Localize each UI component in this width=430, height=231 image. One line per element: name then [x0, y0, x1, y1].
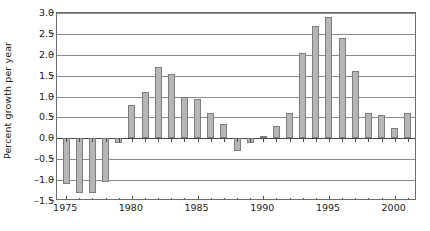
x-axis-minor-tick [408, 138, 409, 142]
y-axis-tick-label: 1.5 [20, 69, 54, 80]
bar [207, 113, 214, 138]
x-axis-minor-tick [224, 198, 225, 200]
x-axis-minor-tick [303, 198, 304, 200]
x-axis-minor-tick [158, 198, 159, 200]
x-axis-minor-tick [408, 198, 409, 200]
bar [155, 67, 162, 138]
x-axis-minor-tick [119, 198, 120, 200]
gridline [57, 180, 415, 181]
gridline [57, 76, 415, 77]
x-axis-major-tick [132, 196, 133, 200]
x-axis-minor-tick [368, 198, 369, 200]
x-axis-tick-label: 1985 [184, 202, 208, 213]
y-axis-tick-mark [50, 75, 54, 76]
x-axis-tick-labels: 197519801985199019952000 [56, 202, 416, 224]
bar [76, 138, 83, 192]
x-axis-minor-tick [342, 138, 343, 142]
x-axis-minor-tick [211, 138, 212, 142]
y-axis-title: Percent growth per year [0, 0, 16, 200]
x-axis-major-tick [66, 196, 67, 200]
y-axis-tick-label: –0.5 [20, 153, 54, 164]
bar [220, 124, 227, 139]
y-axis-tick-label: 0.5 [20, 111, 54, 122]
bar [273, 126, 280, 139]
y-axis-tick-mark [50, 116, 54, 117]
x-axis-minor-tick [119, 138, 120, 142]
y-axis-tick-labels: 3.02.52.01.51.00.50.0–0.5–1.0–1.5 [16, 12, 54, 200]
y-axis-tick-label: –1.0 [20, 174, 54, 185]
x-axis-minor-tick [79, 198, 80, 200]
bar [194, 99, 201, 139]
x-axis-tick-label: 2000 [382, 202, 406, 213]
y-axis-tick-mark [50, 200, 54, 201]
x-axis-minor-tick [290, 138, 291, 142]
x-axis-tick-label: 1995 [316, 202, 340, 213]
bar [181, 97, 188, 139]
x-axis-minor-tick [66, 138, 67, 142]
gridline [57, 97, 415, 98]
x-axis-minor-tick [198, 138, 199, 142]
x-axis-minor-tick [329, 138, 330, 142]
y-axis-tick-mark [50, 137, 54, 138]
x-axis-minor-tick [237, 138, 238, 142]
x-axis-minor-tick [132, 138, 133, 142]
x-axis-minor-tick [106, 198, 107, 200]
x-axis-minor-tick [171, 138, 172, 142]
bar [312, 26, 319, 139]
x-axis-minor-tick [237, 198, 238, 200]
bar [63, 138, 70, 184]
bar [352, 71, 359, 138]
x-axis-minor-tick [92, 138, 93, 142]
y-axis-tick-mark [50, 12, 54, 13]
x-axis-minor-tick [382, 198, 383, 200]
gridline [57, 55, 415, 56]
y-axis-tick-label: 2.0 [20, 48, 54, 59]
bar [391, 128, 398, 138]
x-axis-tick-label: 1975 [53, 202, 77, 213]
y-axis-tick-mark [50, 158, 54, 159]
x-axis-minor-tick [368, 138, 369, 142]
bar [299, 53, 306, 139]
x-axis-minor-tick [92, 198, 93, 200]
x-axis-minor-tick [145, 138, 146, 142]
gridline [57, 34, 415, 35]
x-axis-major-tick [395, 196, 396, 200]
bar-chart: Percent growth per year 3.02.52.01.51.00… [0, 0, 430, 231]
x-axis-minor-tick [79, 138, 80, 142]
gridline [57, 13, 415, 14]
bar [89, 138, 96, 192]
x-axis-minor-tick [342, 198, 343, 200]
x-axis-minor-tick [316, 138, 317, 142]
y-axis-tick-label: 2.5 [20, 27, 54, 38]
y-axis-tick-mark [50, 96, 54, 97]
bar [286, 113, 293, 138]
x-axis-minor-tick [171, 198, 172, 200]
x-axis-minor-tick [158, 138, 159, 142]
plot-area [56, 12, 416, 200]
x-axis-major-tick [198, 196, 199, 200]
x-axis-minor-tick [276, 198, 277, 200]
x-axis-minor-tick [290, 198, 291, 200]
x-axis-minor-tick [395, 138, 396, 142]
x-axis-minor-tick [211, 198, 212, 200]
y-axis-tick-mark [50, 54, 54, 55]
bar [325, 17, 332, 138]
bar [378, 115, 385, 138]
x-axis-minor-tick [106, 138, 107, 142]
bar [339, 38, 346, 138]
x-axis-minor-tick [184, 198, 185, 200]
y-axis-tick-label: 0.0 [20, 132, 54, 143]
x-axis-minor-tick [224, 138, 225, 142]
bar [365, 113, 372, 138]
x-axis-minor-tick [184, 138, 185, 142]
x-axis-minor-tick [355, 138, 356, 142]
x-axis-minor-tick [263, 138, 264, 142]
bar [168, 74, 175, 139]
bar [404, 113, 411, 138]
y-axis-title-text: Percent growth per year [3, 41, 14, 158]
x-axis-minor-tick [145, 198, 146, 200]
bar [142, 92, 149, 138]
bar [102, 138, 109, 182]
bar [128, 105, 135, 138]
y-axis-tick-label: 1.0 [20, 90, 54, 101]
